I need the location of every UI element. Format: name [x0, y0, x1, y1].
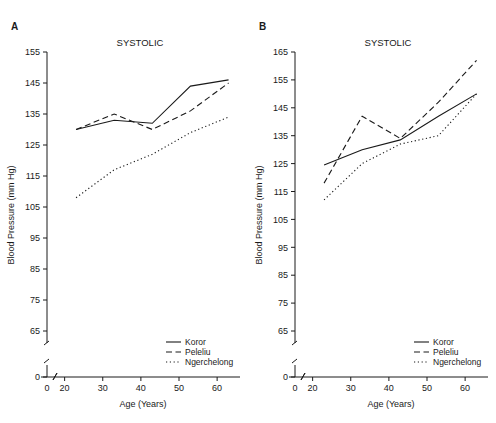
y-tick-label: 145 [25, 78, 40, 88]
y-tick-label: 0 [35, 372, 40, 382]
y-tick-label: 65 [30, 326, 40, 336]
legend-label-ngerchelong: Ngerchelong [185, 357, 233, 367]
y-tick-label: 145 [273, 103, 288, 113]
chart-panel-b: BSYSTOLIC0657585951051151251351451551650… [248, 0, 496, 423]
y-tick-label: 125 [273, 159, 288, 169]
chart-panel-a: ASYSTOLIC0657585951051151251351451550203… [0, 0, 248, 423]
y-axis-break-icon [292, 341, 297, 363]
x-tick-label: 20 [60, 383, 70, 393]
chart-title-a: SYSTOLIC [117, 37, 164, 48]
x-axis-title: Age (Years) [367, 399, 414, 409]
series-line-koror [324, 94, 477, 165]
systolic-blood-pressure-figure: ASYSTOLIC0657585951051151251351451550203… [0, 0, 496, 423]
y-tick-label: 105 [273, 215, 288, 225]
x-tick-label: 30 [346, 383, 356, 393]
panel-letter-a: A [11, 21, 18, 32]
y-axis-title: Blood Pressure (mm Hg) [254, 165, 264, 264]
legend-label-koror: Koror [433, 337, 454, 347]
y-tick-label: 95 [30, 233, 40, 243]
chart-svg-a: ASYSTOLIC0657585951051151251351451550203… [0, 0, 248, 423]
x-tick-label: 30 [98, 383, 108, 393]
panel-letter-b: B [259, 21, 266, 32]
y-tick-label: 105 [25, 202, 40, 212]
y-tick-label: 115 [274, 187, 288, 197]
x-tick-label: 50 [422, 383, 432, 393]
x-tick-label: 0 [44, 383, 49, 393]
y-tick-label: 85 [278, 270, 288, 280]
legend-label-ngerchelong: Ngerchelong [433, 357, 481, 367]
x-tick-label: 0 [292, 383, 297, 393]
x-axis-title: Age (Years) [119, 399, 166, 409]
legend-label-peleliu: Peleliu [185, 347, 211, 357]
y-tick-label: 155 [273, 75, 288, 85]
x-tick-label: 50 [174, 383, 184, 393]
y-tick-label: 75 [30, 295, 40, 305]
series-line-peleliu [324, 60, 477, 183]
x-tick-label: 40 [384, 383, 394, 393]
series-line-koror [76, 80, 229, 130]
y-tick-label: 115 [26, 171, 40, 181]
y-tick-label: 65 [278, 326, 288, 336]
legend-label-peleliu: Peleliu [433, 347, 459, 357]
y-tick-label: 155 [25, 47, 40, 57]
y-axis-title: Blood Pressure (mm Hg) [6, 165, 16, 264]
x-tick-label: 60 [460, 383, 470, 393]
y-tick-label: 95 [278, 243, 288, 253]
series-line-ngerchelong [76, 117, 229, 198]
x-tick-label: 60 [212, 383, 222, 393]
series-line-ngerchelong [324, 94, 477, 200]
y-tick-label: 135 [273, 131, 288, 141]
chart-title-b: SYSTOLIC [365, 37, 412, 48]
x-tick-label: 20 [308, 383, 318, 393]
y-tick-label: 85 [30, 264, 40, 274]
y-tick-label: 135 [25, 109, 40, 119]
y-axis-break-icon [44, 341, 49, 363]
y-tick-label: 125 [25, 140, 40, 150]
y-tick-label: 0 [283, 372, 288, 382]
chart-svg-b: BSYSTOLIC0657585951051151251351451551650… [248, 0, 496, 423]
y-tick-label: 75 [278, 298, 288, 308]
series-line-peleliu [76, 83, 229, 130]
x-tick-label: 40 [136, 383, 146, 393]
legend-label-koror: Koror [185, 337, 206, 347]
y-tick-label: 165 [273, 47, 288, 57]
